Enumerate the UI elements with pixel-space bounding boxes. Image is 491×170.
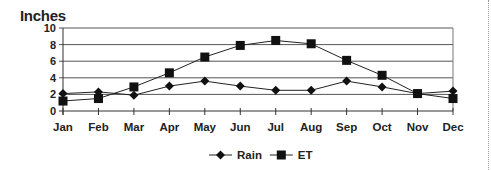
gridlines	[59, 28, 453, 115]
y-tick-label: 8	[50, 39, 56, 51]
data-series	[59, 36, 458, 106]
diamond-marker-icon	[271, 86, 280, 95]
square-marker-icon	[449, 94, 458, 103]
legend-item-rain: Rain	[209, 149, 262, 161]
diamond-marker-icon	[378, 82, 387, 91]
y-tick-label: 0	[50, 105, 56, 117]
square-marker-icon	[236, 41, 245, 50]
series-line	[63, 41, 453, 102]
square-marker-icon	[59, 97, 68, 106]
x-tick-label: Nov	[407, 121, 429, 133]
x-tick-label: Sep	[336, 121, 357, 133]
square-marker-icon	[342, 56, 351, 65]
diamond-marker-icon	[236, 82, 245, 91]
y-tick-label: 4	[50, 72, 57, 84]
y-tick-label: 6	[50, 55, 56, 67]
legend-label: Rain	[237, 149, 262, 161]
legend-item-et: ET	[270, 149, 313, 161]
y-tick-label: 10	[44, 22, 56, 34]
series-et	[59, 36, 458, 106]
diamond-marker-icon	[165, 82, 174, 91]
x-tick-label: May	[194, 121, 217, 133]
x-tick-label: Jun	[230, 121, 250, 133]
x-tick-label: Aug	[300, 121, 322, 133]
square-marker-icon	[307, 39, 316, 48]
square-marker-icon	[277, 151, 286, 160]
y-tick-label: 2	[50, 88, 56, 100]
x-tick-label: Dec	[442, 121, 464, 133]
square-marker-icon	[165, 68, 174, 77]
diamond-marker-icon	[307, 86, 316, 95]
square-marker-icon	[413, 89, 422, 98]
line-chart: 0246810 JanFebMarAprMayJunJulAugSepOctNo…	[0, 0, 491, 170]
square-marker-icon	[200, 53, 209, 62]
diamond-marker-icon	[129, 91, 138, 100]
x-tick-label: Oct	[373, 121, 392, 133]
page-edge-divider	[488, 0, 489, 170]
x-tick-label: Jan	[53, 121, 73, 133]
square-marker-icon	[378, 71, 387, 80]
x-tick-label: Mar	[124, 121, 145, 133]
diamond-marker-icon	[216, 151, 225, 160]
x-tick-label: Jul	[267, 121, 284, 133]
x-axis: JanFebMarAprMayJunJulAugSepOctNovDec	[53, 108, 464, 133]
square-marker-icon	[94, 94, 103, 103]
y-axis-ticks: 0246810	[44, 22, 57, 117]
series-line	[63, 81, 453, 95]
x-tick-label: Apr	[159, 121, 179, 133]
series-rain	[59, 77, 458, 100]
legend: RainET	[209, 149, 313, 161]
x-tick-label: Feb	[88, 121, 108, 133]
legend-label: ET	[298, 149, 313, 161]
square-marker-icon	[129, 82, 138, 91]
square-marker-icon	[271, 36, 280, 45]
